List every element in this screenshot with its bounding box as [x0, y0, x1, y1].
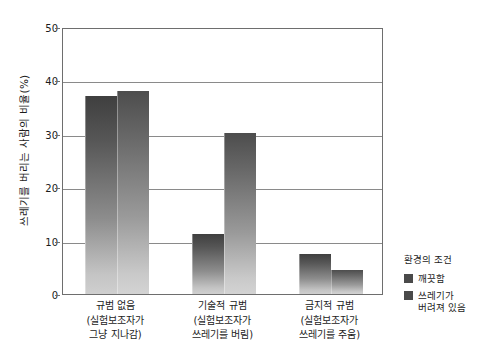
y-tick-mark [55, 295, 60, 296]
x-group-sub-line2: 쓰레기를 버림) [169, 328, 276, 342]
legend: 환경의 조건 깨끗함쓰레기가버려져 있음 [404, 252, 490, 319]
x-group-head: 기술적 규범 [169, 299, 276, 313]
y-tick-mark [55, 135, 60, 136]
x-group-sub-line2: 그냥 지나감) [62, 328, 169, 342]
x-group-sub-line2: 쓰레기를 주움) [276, 328, 383, 342]
bar-2-series-2 [224, 133, 256, 294]
x-group-sub-line1: (실험보조자가 [276, 314, 383, 328]
bar-1-series-1 [85, 96, 117, 294]
legend-label-wrap: 쓰레기가버려져 있음 [418, 290, 466, 314]
legend-items: 깨끗함쓰레기가버려져 있음 [404, 273, 490, 314]
legend-item-1: 깨끗함 [404, 273, 490, 285]
plot-area [62, 28, 383, 295]
y-tick-mark [55, 188, 60, 189]
y-axis-ticks: 50403020100 [30, 0, 58, 359]
bars-layer [63, 29, 382, 294]
x-group-head: 금지적 규범 [276, 299, 383, 313]
x-group-sub-line1: (실험보조자가 [62, 314, 169, 328]
legend-swatch-icon [404, 291, 413, 300]
bar-3-series-2 [331, 270, 363, 294]
x-group-sub-line1: (실험보조자가 [169, 314, 276, 328]
y-tick-mark [55, 242, 60, 243]
chart-screenshot: 쓰레기를 버리는 사람의 비율(%) 50403020100 규범 없음(실험보… [0, 0, 490, 359]
legend-label-line1: 쓰레기가 [418, 290, 466, 302]
x-group-head: 규범 없음 [62, 299, 169, 313]
legend-item-2: 쓰레기가버려져 있음 [404, 290, 490, 314]
y-tick-mark [55, 81, 60, 82]
legend-label-line2: 버려져 있음 [418, 302, 466, 314]
legend-label-wrap: 깨끗함 [418, 273, 445, 285]
bar-3-series-1 [299, 254, 331, 294]
legend-title: 환경의 조건 [404, 252, 490, 266]
legend-label-line1: 깨끗함 [418, 273, 445, 285]
x-axis-group-label-2: 기술적 규범(실험보조자가쓰레기를 버림) [169, 299, 276, 341]
x-axis-group-label-3: 금지적 규범(실험보조자가쓰레기를 주움) [276, 299, 383, 341]
y-tick-mark [55, 28, 60, 29]
x-axis-labels: 규범 없음(실험보조자가그냥 지나감)기술적 규범(실험보조자가쓰레기를 버림)… [62, 299, 383, 359]
bar-1-series-2 [117, 91, 149, 294]
legend-swatch-icon [404, 274, 413, 283]
bar-2-series-1 [192, 234, 224, 294]
x-axis-group-label-1: 규범 없음(실험보조자가그냥 지나감) [62, 299, 169, 341]
